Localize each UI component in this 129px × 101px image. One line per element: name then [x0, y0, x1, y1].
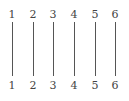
top-label-1: 1 — [5, 9, 19, 21]
top-label-2: 2 — [26, 9, 40, 21]
strand-5 — [95, 22, 96, 76]
bottom-label-2: 2 — [26, 80, 40, 92]
top-label-5: 5 — [88, 9, 102, 21]
top-label-4: 4 — [67, 9, 81, 21]
permutation-diagram: 1 2 3 4 5 6 1 2 3 4 5 6 — [0, 0, 129, 101]
bottom-label-6: 6 — [108, 80, 122, 92]
top-label-6: 6 — [108, 9, 122, 21]
strand-6 — [115, 22, 116, 76]
bottom-label-5: 5 — [88, 80, 102, 92]
strand-4 — [74, 22, 75, 76]
strand-2 — [33, 22, 34, 76]
strand-3 — [53, 22, 54, 76]
top-label-3: 3 — [46, 9, 60, 21]
strand-1 — [12, 22, 13, 76]
bottom-label-4: 4 — [67, 80, 81, 92]
bottom-label-3: 3 — [46, 80, 60, 92]
bottom-label-1: 1 — [5, 80, 19, 92]
